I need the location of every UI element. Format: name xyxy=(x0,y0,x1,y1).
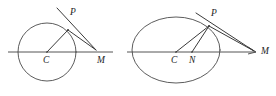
left-point-p xyxy=(67,29,69,31)
label-right-n: N xyxy=(189,56,195,66)
label-right-p: P xyxy=(211,9,217,19)
label-left-p: P xyxy=(70,8,76,18)
geometry-figure: P C M P C N M xyxy=(0,0,276,96)
right-segment-np xyxy=(192,26,209,52)
right-segment-cp xyxy=(176,26,209,52)
left-segment-pm xyxy=(68,30,96,50)
left-panel-group xyxy=(8,8,113,81)
right-point-n xyxy=(191,51,193,53)
label-left-c: C xyxy=(43,56,49,66)
label-left-m: M xyxy=(97,56,105,66)
left-tangent-line xyxy=(57,8,96,50)
right-segment-pm xyxy=(209,26,254,51)
label-right-c: C xyxy=(171,56,177,66)
left-point-c xyxy=(46,51,48,53)
left-radius-cp xyxy=(47,30,68,52)
geometry-canvas xyxy=(0,0,276,96)
right-point-c xyxy=(175,51,177,53)
label-right-m: M xyxy=(261,47,269,57)
right-ellipse xyxy=(132,17,220,83)
right-point-p xyxy=(208,25,210,27)
right-panel-group xyxy=(127,13,256,83)
